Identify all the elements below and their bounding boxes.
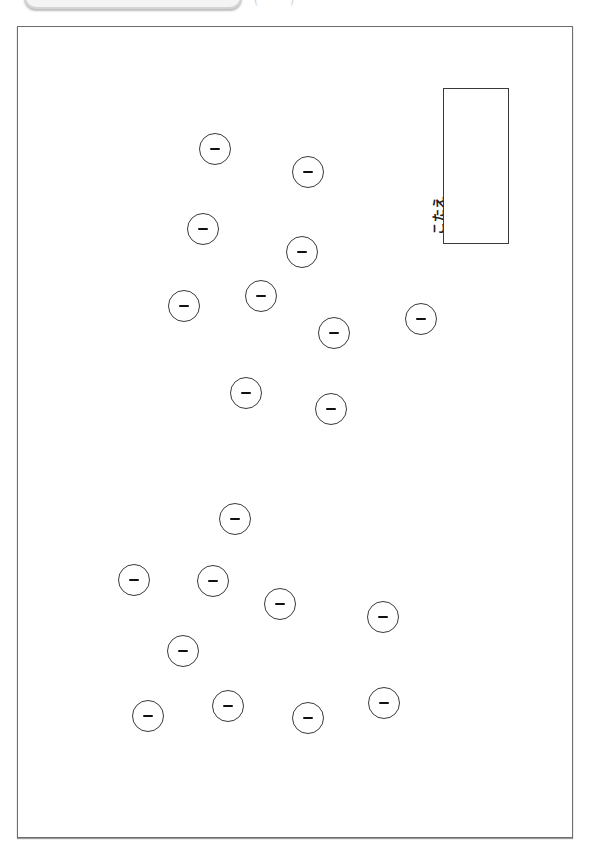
negative-ion — [315, 393, 347, 425]
negative-ion — [132, 700, 164, 732]
negative-ion — [212, 690, 244, 722]
negative-ion — [167, 635, 199, 667]
negative-ion — [292, 156, 324, 188]
negative-ion — [219, 503, 251, 535]
minus-icon — [329, 332, 339, 334]
minus-icon — [208, 580, 218, 582]
header-tab — [24, 0, 242, 9]
negative-ion — [187, 213, 219, 245]
answer-box[interactable] — [443, 88, 509, 244]
negative-ion — [405, 303, 437, 335]
minus-icon — [223, 705, 233, 707]
minus-icon — [129, 579, 139, 581]
negative-ion — [368, 687, 400, 719]
negative-ion — [168, 290, 200, 322]
negative-ion — [292, 702, 324, 734]
negative-ion — [245, 280, 277, 312]
minus-icon — [297, 251, 307, 253]
minus-icon — [378, 616, 388, 618]
negative-ion — [286, 236, 318, 268]
minus-icon — [198, 228, 208, 230]
minus-icon — [179, 305, 189, 307]
minus-icon — [326, 408, 336, 410]
minus-icon — [416, 318, 426, 320]
minus-icon — [230, 518, 240, 520]
minus-icon — [303, 171, 313, 173]
minus-icon — [143, 715, 153, 717]
minus-icon — [256, 295, 266, 297]
minus-icon — [379, 702, 389, 704]
minus-icon — [178, 650, 188, 652]
negative-ion — [197, 565, 229, 597]
minus-icon — [303, 717, 313, 719]
header-paren: ( ) — [254, 0, 308, 7]
negative-ion — [264, 588, 296, 620]
negative-ion — [318, 317, 350, 349]
negative-ion — [118, 564, 150, 596]
negative-ion — [367, 601, 399, 633]
negative-ion — [199, 133, 231, 165]
minus-icon — [275, 603, 285, 605]
minus-icon — [210, 148, 220, 150]
negative-ion — [230, 377, 262, 409]
minus-icon — [241, 392, 251, 394]
